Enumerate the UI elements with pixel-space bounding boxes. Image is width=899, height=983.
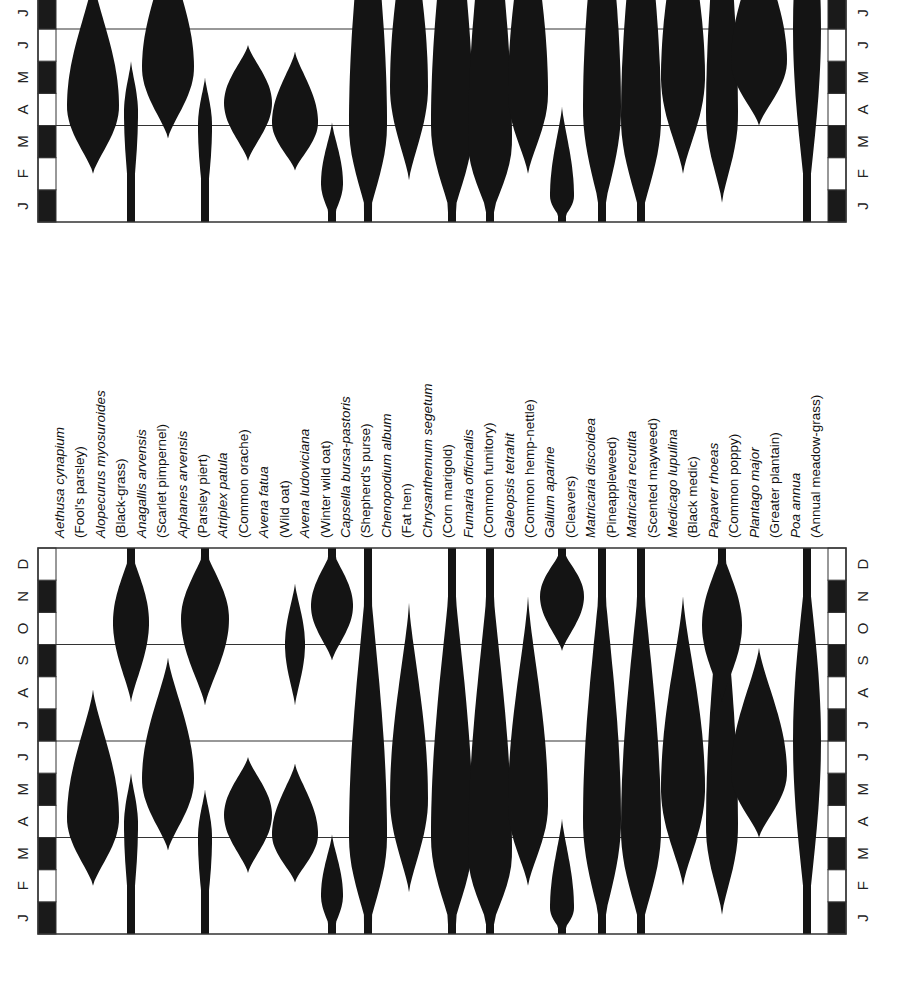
month-label-left: A xyxy=(14,104,31,114)
month-band-right xyxy=(828,93,846,125)
month-band-right xyxy=(828,126,846,158)
month-label-left: J xyxy=(14,41,31,49)
month-label-right: N xyxy=(854,591,871,602)
species-scientific-name: Matricaria recutita xyxy=(624,430,639,538)
species-common-name: (Parsley piert) xyxy=(195,454,210,538)
month-band-left xyxy=(38,29,56,61)
month-band-right xyxy=(828,741,846,773)
species-common-name: (Common hemp-nettle) xyxy=(522,399,537,538)
month-band-left xyxy=(38,93,56,125)
month-label-left: N xyxy=(14,591,31,602)
species-common-name: (Cleavers) xyxy=(563,476,578,538)
month-label-right: M xyxy=(854,71,871,84)
species-common-name: (Corn marigold) xyxy=(440,444,455,538)
month-band-right xyxy=(828,61,846,93)
month-label-left: M xyxy=(14,71,31,84)
month-band-left xyxy=(38,190,56,222)
month-band-left xyxy=(38,677,56,709)
month-label-left: J xyxy=(14,721,31,729)
month-band-left xyxy=(38,838,56,870)
month-label-right: J xyxy=(854,914,871,922)
month-label-left: J xyxy=(14,202,31,210)
species-common-name: (Scarlet pimpernel) xyxy=(154,424,169,538)
month-label-left: A xyxy=(14,816,31,826)
month-band-left xyxy=(38,902,56,934)
month-label-right: S xyxy=(854,656,871,666)
species-scientific-name: Anagallis arvensis xyxy=(134,429,149,539)
month-band-right xyxy=(828,158,846,190)
month-label-right: D xyxy=(854,559,871,570)
month-band-left xyxy=(38,158,56,190)
species-common-name: (Black medic) xyxy=(685,456,700,538)
month-label-left: O xyxy=(14,623,31,635)
month-label-right: J xyxy=(854,753,871,761)
month-label-right: F xyxy=(854,169,871,178)
species-scientific-name: Fumaria officinalis xyxy=(461,429,476,538)
month-label-left: F xyxy=(14,169,31,178)
month-band-left xyxy=(38,548,56,580)
month-label-right: J xyxy=(854,41,871,49)
month-band-right xyxy=(828,805,846,837)
month-label-left: S xyxy=(14,656,31,666)
species-common-name: (Annual meadow-grass) xyxy=(808,395,823,538)
month-band-left xyxy=(38,709,56,741)
species-common-name: (Common orache) xyxy=(236,429,251,538)
month-label-right: O xyxy=(854,623,871,635)
month-band-right xyxy=(828,0,846,29)
month-band-right xyxy=(828,548,846,580)
species-labels: Aethusa cynapium(Fool's parsley)Alopecur… xyxy=(52,383,823,539)
month-label-right: M xyxy=(854,847,871,860)
bottom-panel: JJFFMMAAMMJJJJAASSOONNDD xyxy=(14,548,871,934)
month-band-right xyxy=(828,29,846,61)
month-band-right xyxy=(828,773,846,805)
month-label-left: J xyxy=(14,9,31,17)
species-common-name: (Scented mayweed) xyxy=(645,418,660,538)
species-scientific-name: Plantago major xyxy=(747,447,762,538)
month-band-left xyxy=(38,612,56,644)
species-common-name: (Common fumitory) xyxy=(481,422,496,538)
species-scientific-name: Aethusa cynapium xyxy=(52,427,67,539)
month-band-right xyxy=(828,870,846,902)
month-band-right xyxy=(828,709,846,741)
month-label-left: D xyxy=(14,559,31,570)
month-label-right: J xyxy=(854,9,871,17)
month-band-right xyxy=(828,902,846,934)
month-band-left xyxy=(38,61,56,93)
month-label-right: A xyxy=(854,688,871,698)
species-scientific-name: Poa annua xyxy=(788,472,803,538)
species-scientific-name: Matricaria discoidea xyxy=(583,417,598,538)
month-band-left xyxy=(38,773,56,805)
month-band-left xyxy=(38,0,56,29)
month-band-left xyxy=(38,870,56,902)
species-scientific-name: Capsella bursa-pastoris xyxy=(338,396,353,538)
month-band-left xyxy=(38,580,56,612)
month-label-left: J xyxy=(14,914,31,922)
month-band-left xyxy=(38,126,56,158)
month-label-right: A xyxy=(854,104,871,114)
species-common-name: (Winter wild oat) xyxy=(318,440,333,538)
month-label-right: F xyxy=(854,881,871,890)
species-scientific-name: Galium aparine xyxy=(542,446,557,538)
month-label-right: J xyxy=(854,202,871,210)
species-common-name: (Wild oat) xyxy=(277,480,292,538)
month-label-right: M xyxy=(854,783,871,796)
species-scientific-name: Chrysanthemum segetum xyxy=(420,383,435,538)
month-label-left: M xyxy=(14,783,31,796)
species-common-name: (Greater plantain) xyxy=(767,432,782,538)
month-label-right: J xyxy=(854,721,871,729)
month-band-right xyxy=(828,645,846,677)
month-band-right xyxy=(828,677,846,709)
species-common-name: (Fat hen) xyxy=(399,483,414,538)
species-scientific-name: Atriplex patula xyxy=(215,452,230,539)
species-scientific-name: Papaver rhoeas xyxy=(706,442,721,538)
month-label-left: A xyxy=(14,688,31,698)
month-label-left: J xyxy=(14,753,31,761)
month-band-left xyxy=(38,805,56,837)
top-panel-continuation: JJFFMMAAMMJJJJAASSOONNDD xyxy=(14,0,871,222)
month-band-right xyxy=(828,190,846,222)
species-common-name: (Common poppy) xyxy=(726,434,741,538)
species-scientific-name: Alopecurus myosuroides xyxy=(93,390,108,539)
month-band-right xyxy=(828,580,846,612)
month-band-right xyxy=(828,838,846,870)
species-scientific-name: Avena ludoviciana xyxy=(297,428,312,539)
